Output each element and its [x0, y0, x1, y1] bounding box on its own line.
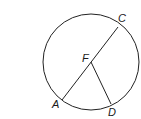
radius-fd — [91, 62, 111, 104]
label-f: F — [82, 52, 90, 64]
label-a: A — [51, 98, 59, 110]
label-c: C — [118, 12, 126, 24]
diameter-ac — [62, 27, 118, 100]
circle-diagram: C F A D — [0, 0, 141, 119]
label-d: D — [108, 106, 116, 118]
